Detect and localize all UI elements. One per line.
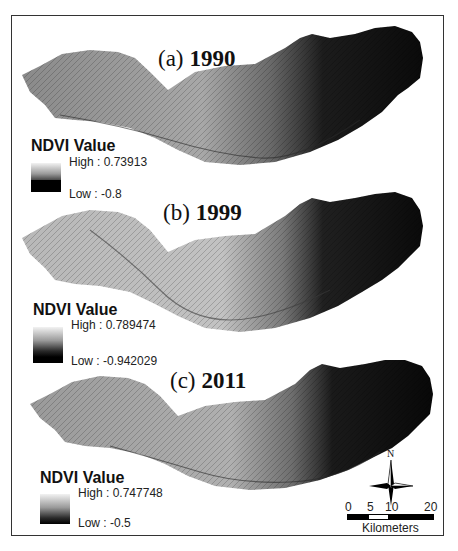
panel-title-1990: (a)1990 bbox=[158, 46, 236, 72]
north-arrow: N bbox=[369, 448, 413, 506]
north-label: N bbox=[387, 448, 394, 459]
scale-label-0: 0 bbox=[345, 500, 352, 514]
legend-title-1999: NDVI Value bbox=[33, 301, 117, 319]
scale-label-5: 5 bbox=[367, 500, 374, 514]
panel-year: 1999 bbox=[196, 200, 242, 225]
panel-label: (c) bbox=[170, 368, 196, 393]
panel-title-1999: (b)1999 bbox=[163, 200, 242, 226]
legend-title-2011: NDVI Value bbox=[40, 469, 124, 487]
scale-label-10: 10 bbox=[385, 500, 398, 514]
panel-label: (b) bbox=[163, 200, 190, 225]
compass-rose-icon: N bbox=[369, 448, 413, 506]
panel-year: 2011 bbox=[202, 368, 247, 393]
panel-1990: (a)1990 NDVI Value High : 0.73913 bbox=[0, 0, 458, 180]
legend-low-2011: Low : -0.5 bbox=[78, 516, 131, 530]
scale-unit: Kilometers bbox=[362, 521, 419, 535]
panel-year: 1990 bbox=[190, 46, 236, 71]
legend-high-1999: High : 0.789474 bbox=[71, 318, 156, 332]
legend-high-1990: High : 0.73913 bbox=[69, 155, 147, 169]
legend-high-2011: High : 0.747748 bbox=[78, 486, 163, 500]
panel-1999: (b)1999 NDVI Value High : 0.789474 bbox=[0, 180, 458, 360]
legend-ramp-2011 bbox=[40, 494, 70, 524]
legend-ramp-1999 bbox=[33, 327, 63, 357]
legend-title-1990: NDVI Value bbox=[31, 137, 115, 155]
panel-title-2011: (c)2011 bbox=[170, 368, 246, 394]
scale-bar bbox=[347, 514, 434, 520]
scale-label-20: 20 bbox=[424, 500, 437, 514]
panel-label: (a) bbox=[158, 46, 184, 71]
